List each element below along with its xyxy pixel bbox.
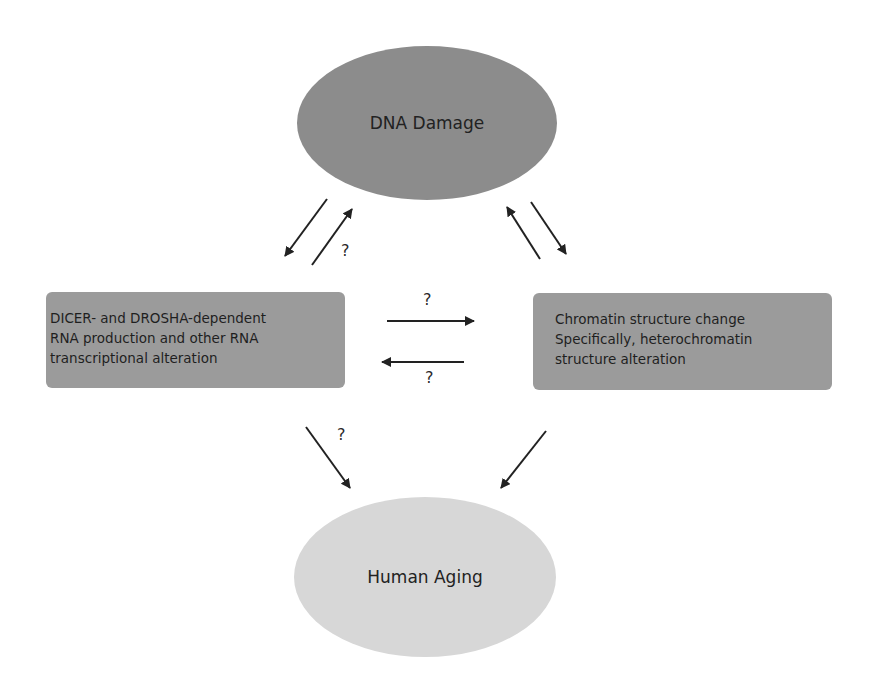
question-mark-rna-to-dna: ? [341,241,350,260]
question-mark-rna-to-aging: ? [337,425,346,444]
arrow-dna-to-rna [285,199,327,256]
arrow-chromatin-to-aging [501,431,546,488]
arrow-dna-to-chromatin [531,202,566,254]
question-mark-chromatin-to-rna: ? [425,368,434,387]
diagram-canvas: DNA Damage DICER- and DROSHA-dependent R… [0,0,870,679]
arrows-layer [0,0,870,679]
arrow-chromatin-to-dna [507,207,540,259]
question-mark-rna-to-chromatin: ? [423,290,432,309]
